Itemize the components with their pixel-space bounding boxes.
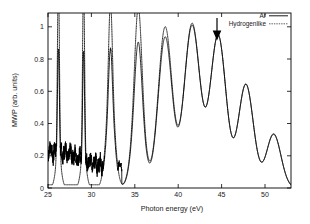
y-tick-label-5: 1 [40, 23, 44, 30]
legend-label-ar: Ar [260, 12, 267, 19]
x-tick-label-0: 25 [44, 191, 52, 198]
y-tick-label-3: 0.6 [34, 88, 44, 95]
x-tick-label-3: 40 [174, 191, 182, 198]
x-tick-label-2: 35 [131, 191, 139, 198]
data-series-group [48, 0, 291, 185]
x-tick-label-4: 45 [218, 191, 226, 198]
y-tick-label-1: 0.2 [34, 152, 44, 159]
y-tick-label-4: 0.8 [34, 56, 44, 63]
x-axis-title: Photon energy (eV) [141, 204, 203, 213]
x-tick-label-1: 30 [88, 191, 96, 198]
x-tick-label-5: 50 [261, 191, 269, 198]
legend: Ar Hydrogenlike [229, 12, 288, 28]
chart-figure: 0 0.2 0.4 0.6 0.8 1 25 30 35 40 45 50 Ph… [0, 0, 310, 224]
y-tick-label-2: 0.4 [34, 120, 44, 127]
y-axis-title: MWP (arb. units) [10, 73, 19, 127]
x-tick-labels: 25 30 35 40 45 50 [44, 191, 269, 198]
chart-canvas: 0 0.2 0.4 0.6 0.8 1 25 30 35 40 45 50 Ph… [0, 0, 310, 224]
legend-label-hydrogenlike: Hydrogenlike [229, 20, 267, 28]
y-tick-labels: 0 0.2 0.4 0.6 0.8 1 [34, 23, 44, 191]
